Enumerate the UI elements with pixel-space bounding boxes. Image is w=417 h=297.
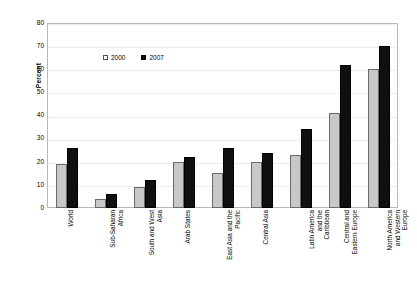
- bar-2000: [290, 155, 301, 208]
- x-axis-category-label: Central Asia: [262, 210, 270, 294]
- bar-2007: [184, 157, 195, 208]
- bar-2000: [95, 199, 106, 208]
- x-axis-category-label: North America and Western Europe: [386, 210, 409, 294]
- bar-2000: [329, 113, 340, 208]
- legend: 2000 2007: [103, 54, 164, 61]
- bars-layer: [47, 23, 398, 208]
- bar-group: [56, 23, 78, 208]
- y-axis-tick-label: 60: [26, 66, 44, 73]
- y-axis-tick-label: 20: [26, 159, 44, 166]
- y-axis-tick-label: 30: [26, 135, 44, 142]
- bar-2007: [145, 180, 156, 208]
- bar-2007: [67, 148, 78, 208]
- bar-2000: [212, 173, 223, 208]
- bar-group: [95, 23, 117, 208]
- y-axis-tick-label: 50: [26, 89, 44, 96]
- legend-entry-2007: 2007: [141, 54, 163, 61]
- x-axis-category-label: Arab States: [184, 210, 192, 294]
- x-axis-category-label: World: [67, 210, 75, 294]
- legend-label-2007: 2007: [149, 54, 163, 61]
- x-axis-category-label: South and West Asia: [148, 210, 163, 294]
- bar-group: [368, 23, 390, 208]
- bar-2000: [251, 162, 262, 208]
- bar-group: [290, 23, 312, 208]
- bar-2007: [379, 46, 390, 208]
- x-axis-category-labels: WorldSub-Saharan AfricaSouth and West As…: [47, 210, 398, 297]
- y-axis-tick-label: 40: [26, 112, 44, 119]
- y-axis-tick-label: 0: [26, 205, 44, 212]
- bar-2007: [106, 194, 117, 208]
- bar-group: [173, 23, 195, 208]
- bar-group: [329, 23, 351, 208]
- x-axis-category-label: Latin America and the Caribbean: [308, 210, 331, 294]
- legend-label-2000: 2000: [111, 54, 125, 61]
- bar-group: [212, 23, 234, 208]
- x-axis-category-label: Central and Eastern Europe: [343, 210, 358, 294]
- bar-2007: [340, 65, 351, 208]
- bar-2007: [301, 129, 312, 208]
- x-axis-category-label: Sub-Saharan Africa: [109, 210, 124, 294]
- bar-group: [251, 23, 273, 208]
- y-axis-tick-label: 10: [26, 182, 44, 189]
- x-axis-category-label: East Asia and the Pacific: [226, 210, 241, 294]
- bar-2000: [56, 164, 67, 208]
- bar-2000: [134, 187, 145, 208]
- bar-2000: [173, 162, 184, 208]
- y-axis-tick-labels: 01020304050607080: [24, 23, 44, 208]
- bar-2000: [368, 69, 379, 208]
- legend-swatch-2007-icon: [141, 55, 146, 60]
- bar-2007: [223, 148, 234, 208]
- bar-chart: Percent 01020304050607080 2000 2007 Worl…: [0, 0, 417, 297]
- y-axis-tick-label: 70: [26, 43, 44, 50]
- legend-swatch-2000-icon: [103, 55, 108, 60]
- y-axis-tick-label: 80: [26, 20, 44, 27]
- bar-group: [134, 23, 156, 208]
- bar-2007: [262, 153, 273, 209]
- legend-entry-2000: 2000: [103, 54, 125, 61]
